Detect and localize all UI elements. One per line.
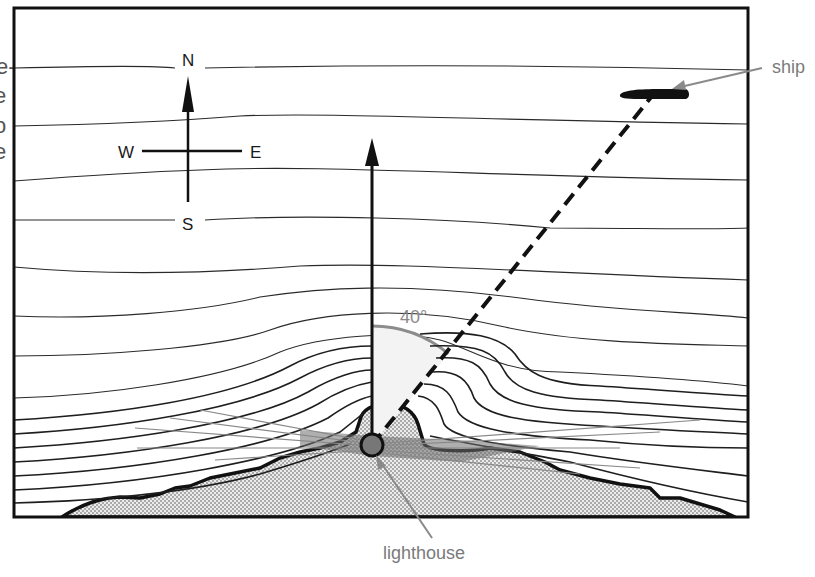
edge-fragment-4: e <box>0 139 6 164</box>
map-area <box>14 66 748 517</box>
edge-fragment-3: o <box>0 113 6 138</box>
ship-label: ship <box>772 57 805 77</box>
compass-east-label: E <box>250 143 261 162</box>
compass-north-label: N <box>182 51 194 70</box>
lighthouse-icon <box>361 434 383 456</box>
ship-callout: ship <box>672 57 805 90</box>
ship-silhouette-icon <box>620 89 689 99</box>
land-mass <box>62 404 735 517</box>
compass-west-label: W <box>118 143 134 162</box>
edge-fragment-2: e <box>0 83 6 108</box>
lighthouse-bearing-diagram: e- e o e <box>0 0 815 577</box>
angle-label: 40° <box>400 307 427 327</box>
arrow-up-icon <box>365 138 379 166</box>
lighthouse-label: lighthouse <box>383 543 465 563</box>
compass-rose-icon: N S E W <box>118 51 261 234</box>
bearing-line-to-ship <box>372 96 652 445</box>
compass-south-label: S <box>182 215 193 234</box>
